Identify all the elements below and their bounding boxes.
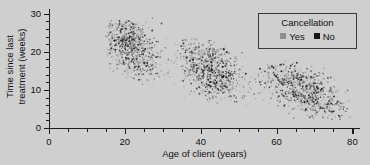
- x-axis-minor-tick: [68, 129, 69, 132]
- x-axis-line: [49, 128, 360, 129]
- legend-title: Cancellation: [259, 17, 356, 28]
- y-tick-label: 0: [21, 122, 41, 133]
- y-tick-label: 10: [21, 84, 41, 95]
- x-axis-minor-tick: [239, 129, 240, 132]
- x-tick-label: 60: [266, 136, 288, 147]
- x-axis-major-tick: [201, 129, 202, 134]
- x-axis-minor-tick: [163, 129, 164, 132]
- y-axis-label: Time since last treatment (weeks): [0, 0, 30, 132]
- x-tick-label: 40: [190, 136, 212, 147]
- x-axis-label: Age of client (years): [49, 148, 360, 159]
- x-axis-minor-tick: [182, 129, 183, 132]
- legend-label-no: No: [323, 31, 335, 42]
- x-tick-label: 80: [341, 136, 363, 147]
- x-axis-major-tick: [352, 129, 353, 134]
- x-axis-major-tick: [277, 129, 278, 134]
- x-axis-minor-tick: [258, 129, 259, 132]
- scatter-plot-figure: Time since last treatment (weeks) 010203…: [0, 0, 370, 165]
- x-axis-minor-tick: [87, 129, 88, 132]
- x-axis-ticks: 020406080: [49, 129, 360, 135]
- y-tick-label: 20: [21, 46, 41, 57]
- x-axis-major-tick: [49, 129, 50, 134]
- x-tick-label: 0: [38, 136, 60, 147]
- legend-swatch-yes-icon: [280, 33, 286, 39]
- x-axis-minor-tick: [296, 129, 297, 132]
- y-tick-label: 30: [21, 8, 41, 19]
- x-axis-minor-tick: [220, 129, 221, 132]
- x-axis-minor-tick: [144, 129, 145, 132]
- x-axis-minor-tick: [314, 129, 315, 132]
- legend-label-yes: Yes: [289, 31, 305, 42]
- legend-entry-yes: Yes: [280, 31, 305, 42]
- y-axis-label-line-1: Time since last: [4, 28, 16, 104]
- x-axis-minor-tick: [333, 129, 334, 132]
- legend-entries: Yes No: [259, 31, 356, 42]
- legend-box: Cancellation Yes No: [258, 13, 357, 49]
- x-axis-major-tick: [125, 129, 126, 134]
- x-tick-label: 20: [114, 136, 136, 147]
- x-axis-minor-tick: [106, 129, 107, 132]
- legend-swatch-no-icon: [314, 33, 320, 39]
- legend-entry-no: No: [314, 31, 335, 42]
